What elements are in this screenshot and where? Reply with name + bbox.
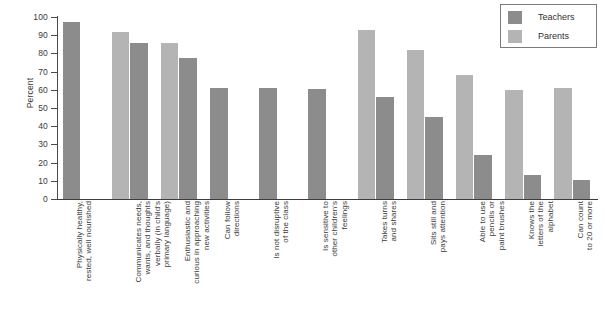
bar-teachers-1 [130, 43, 148, 199]
x-category-label-3: Can follow directions [223, 201, 242, 239]
x-category-label-7: Sits still and pays attention [429, 201, 448, 252]
bar-parents-9 [505, 90, 523, 199]
bar-chart-figure: Percent 0102030405060708090100 Physicall… [0, 0, 605, 322]
chart-legend: Teachers Parents [500, 4, 597, 48]
y-tick-label: 50 [2, 103, 48, 113]
x-category-label-1: Communicates needs, wants, and thoughts … [134, 201, 172, 283]
y-tick-label: 90 [2, 30, 48, 40]
bar-teachers-10 [573, 180, 591, 199]
y-tick-label: 70 [2, 67, 48, 77]
bar-teachers-7 [425, 117, 443, 199]
x-category-label-8: Able to use pencils or paint brushes [478, 201, 506, 250]
bar-teachers-8 [474, 155, 492, 199]
bar-teachers-2 [179, 58, 197, 199]
bar-teachers-9 [524, 175, 542, 199]
y-tick-label: 80 [2, 48, 48, 58]
y-tick-label: 60 [2, 85, 48, 95]
y-tick-label: 100 [2, 12, 48, 22]
legend-swatch-teachers [508, 11, 522, 24]
x-category-label-5: Is sensitive to other children's feeling… [321, 201, 349, 257]
bar-parents-10 [554, 88, 572, 199]
bar-parents-6 [358, 30, 376, 199]
y-tick-label: 10 [2, 176, 48, 186]
x-axis-category-labels: Physically healthy, rested, well nourish… [57, 201, 598, 322]
legend-label-teachers: Teachers [538, 12, 575, 22]
x-category-label-2: Enthusiastic and curious in approaching … [183, 201, 211, 284]
y-tick-label: 0 [2, 194, 48, 204]
x-category-label-9: Knows the letters of the alphabet [527, 201, 555, 246]
bar-teachers-4 [259, 88, 277, 199]
y-tick-label: 40 [2, 121, 48, 131]
bar-teachers-6 [376, 97, 394, 199]
legend-swatch-parents [508, 30, 522, 43]
bar-parents-7 [407, 50, 425, 199]
bar-parents-8 [456, 75, 474, 199]
y-tick-mark [51, 199, 57, 200]
bar-teachers-0 [63, 22, 81, 199]
bar-teachers-5 [308, 89, 326, 199]
x-category-label-6: Takes turns and shares [380, 201, 399, 243]
x-category-label-10: Can count to 20 or more [576, 201, 595, 250]
bar-parents-1 [112, 32, 130, 199]
y-tick-label: 20 [2, 158, 48, 168]
bar-parents-2 [161, 43, 179, 199]
y-tick-label: 30 [2, 139, 48, 149]
legend-label-parents: Parents [538, 31, 569, 41]
bar-teachers-3 [210, 88, 228, 199]
x-category-label-4: Is not disruptive of the class [272, 201, 291, 259]
x-category-label-0: Physically healthy, rested, well nourish… [75, 201, 94, 281]
